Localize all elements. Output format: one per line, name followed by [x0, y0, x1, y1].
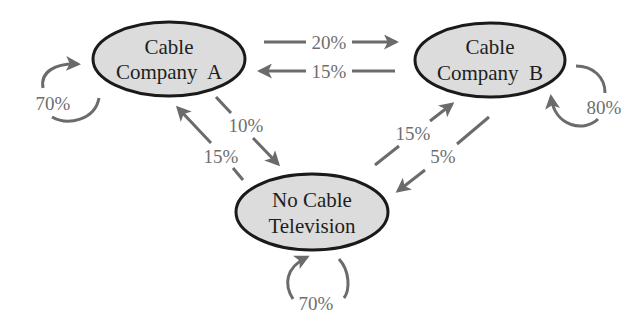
edge-n-self-loop-right-arc — [339, 259, 348, 298]
edge-a-to-b: 20% — [264, 32, 396, 53]
node-b-label-line2: Company B — [437, 61, 543, 85]
edge-a-self-loop-label: 70% — [36, 93, 71, 114]
node-a-label-line2: Company A — [116, 60, 223, 84]
edge-n-to-b-arrow — [430, 104, 452, 121]
edge-n-to-a-line-bottom — [233, 168, 243, 180]
edge-b-to-n-arrow — [398, 170, 425, 191]
node-b-label-line1: Cable — [466, 35, 515, 59]
node-a-label-line1: Cable — [145, 35, 194, 59]
edge-n-self-loop-label: 70% — [299, 293, 334, 314]
node-cable-company-b: Cable Company B — [415, 23, 565, 97]
edge-a-to-b-label: 20% — [312, 32, 347, 53]
edge-n-to-a-arrow — [178, 108, 211, 143]
node-n-label-line1: No Cable — [272, 188, 352, 212]
edge-b-self-loop: 80% — [551, 66, 622, 126]
node-n-ellipse — [236, 174, 388, 250]
markov-state-diagram: Cable Company A Cable Company B No Cable… — [0, 0, 637, 331]
edge-b-self-loop-label: 80% — [587, 97, 622, 118]
edge-b-self-loop-upper-arc — [576, 66, 605, 93]
edge-n-to-a-label: 15% — [204, 146, 239, 167]
edge-a-self-loop: 70% — [36, 64, 99, 121]
edge-n-self-loop: 70% — [288, 257, 348, 314]
edge-n-to-b-label: 15% — [396, 123, 431, 144]
edge-n-to-b-line-bottom — [375, 146, 399, 165]
node-a-ellipse — [93, 22, 245, 96]
edge-a-self-loop-upper-arc — [43, 64, 78, 88]
node-n-label-line2: Television — [268, 214, 356, 238]
edge-a-to-n-line-top — [216, 97, 231, 113]
edge-b-to-a-label: 15% — [312, 61, 347, 82]
edge-b-to-n-label: 5% — [430, 146, 456, 167]
edge-a-to-n-label: 10% — [229, 115, 264, 136]
edge-b-to-n-line-top — [457, 117, 489, 144]
edge-a-to-n-arrow — [253, 138, 278, 164]
edge-b-to-a: 15% — [260, 61, 395, 82]
node-no-cable-television: No Cable Television — [236, 174, 388, 250]
node-cable-company-a: Cable Company A — [93, 22, 245, 96]
